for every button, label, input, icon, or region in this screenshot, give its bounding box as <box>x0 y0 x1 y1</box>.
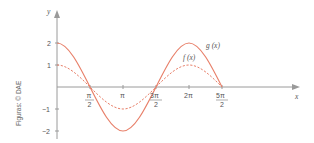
y-tick-2: 2 <box>47 40 51 47</box>
x-tick-5pi-half: 5π 2 <box>216 92 228 108</box>
y-axis-arrow-icon <box>54 10 60 18</box>
x-tick-2pi: 2π <box>184 92 193 99</box>
svg-text:5π: 5π <box>216 92 225 99</box>
svg-text:2: 2 <box>220 101 224 108</box>
svg-text:2: 2 <box>88 101 92 108</box>
svg-text:π: π <box>87 92 92 99</box>
x-tick-3pi-half: 3π 2 <box>150 92 162 108</box>
y-tick-1: 1 <box>47 62 51 69</box>
credit-text: Figuras: © DAE <box>15 80 23 126</box>
x-axis-label: x <box>294 92 299 101</box>
svg-text:2: 2 <box>154 101 158 108</box>
x-tick-pi: π <box>120 92 125 99</box>
f-label: f (x) <box>183 53 196 62</box>
axes <box>57 16 294 139</box>
g-label: g (x) <box>206 41 220 50</box>
x-axis-arrow-icon <box>292 84 300 90</box>
x-tick-pi-half: π 2 <box>85 92 94 108</box>
y-tick-minus1: −1 <box>42 106 50 113</box>
svg-text:3π: 3π <box>150 92 159 99</box>
y-tick-minus2: −2 <box>42 128 50 135</box>
cosine-chart: y x 2 1 −1 −2 π 2 π 3π 2 2π 5π 2 g (x) f… <box>0 0 314 143</box>
y-axis-label: y <box>46 7 51 16</box>
